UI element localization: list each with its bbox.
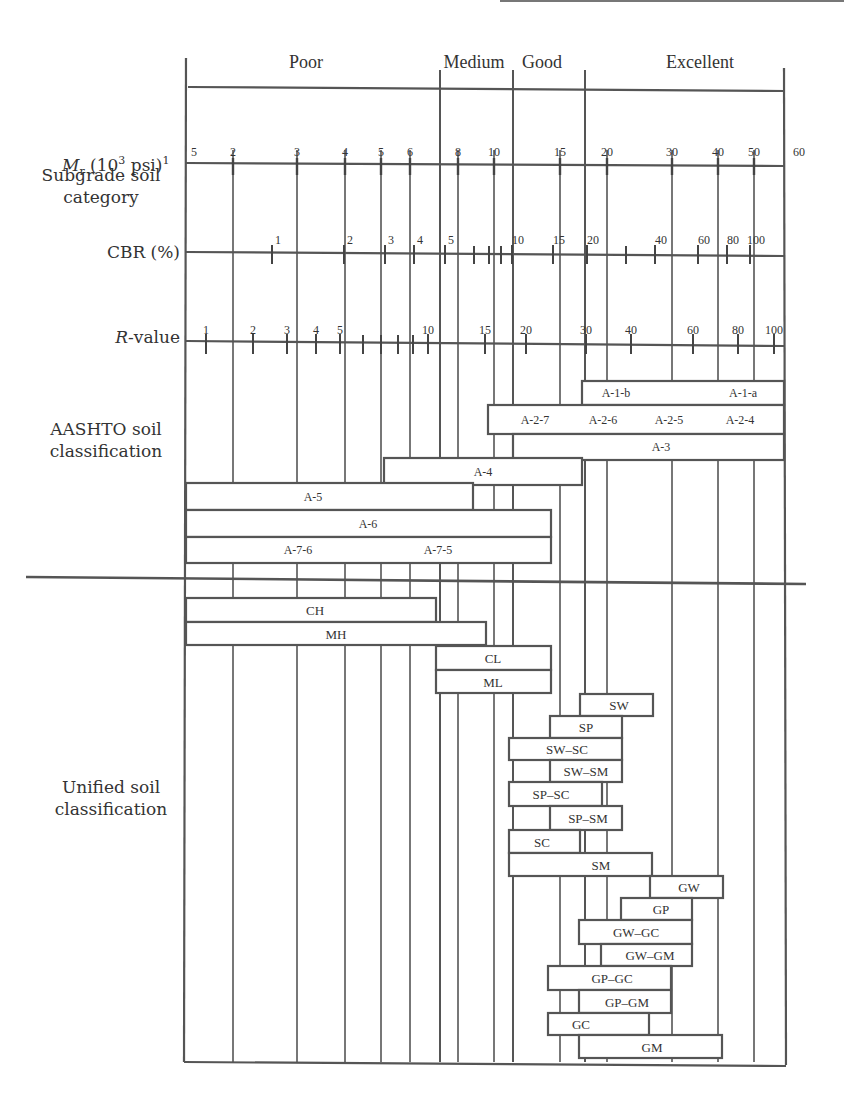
r-value-tick-label: 4 (313, 323, 319, 337)
category-labels: PoorMediumGoodExcellent (289, 52, 734, 72)
mr-tick-label: 2 (230, 145, 236, 159)
mr-axis (186, 163, 784, 166)
cbr-tick-label: 5 (448, 233, 454, 247)
mr-tick-label: 15 (554, 145, 566, 159)
unified-bar (509, 853, 652, 876)
aashto-label-a-7-6: A-7-6 (284, 543, 313, 557)
unified-label-gm: GM (642, 1040, 663, 1055)
mr-tick-label: 60 (793, 145, 805, 159)
r-value-tick-label: 2 (250, 323, 256, 337)
cbr-tick-label: 1 (275, 233, 281, 247)
cbr-tick-label: 3 (388, 233, 394, 247)
unified-label-sw–sm: SW–SM (564, 764, 609, 779)
aashto-label-a-2-5: A-2-5 (655, 413, 684, 427)
unified-label-sp–sc: SP–SC (533, 787, 570, 802)
unified-label-cl: CL (485, 651, 502, 666)
aashto-label-a-1-a: A-1-a (729, 386, 758, 400)
cbr-tick-label: 100 (747, 233, 765, 247)
category-label-good: Good (522, 52, 562, 72)
mr-tick-label: 5 (191, 145, 197, 159)
r-value-tick-label: 20 (520, 323, 532, 337)
unified-label-gp–gc: GP–GC (591, 971, 632, 986)
aashto-label-a-2-4: A-2-4 (726, 413, 755, 427)
unified-label-ml: ML (483, 675, 503, 690)
aashto-label-a-5: A-5 (304, 490, 323, 504)
unified-label-sc: SC (534, 835, 550, 850)
unified-label-sw: SW (609, 698, 629, 713)
cbr-tick-label: 15 (553, 233, 565, 247)
unified-label-sm: SM (592, 858, 611, 873)
r-value-tick-label: 30 (580, 323, 592, 337)
aashto-label-a-6: A-6 (359, 517, 378, 531)
frame-right (784, 68, 786, 1065)
unified-label-gw: GW (678, 880, 700, 895)
r-value-tick-label: 1 (203, 323, 209, 337)
cbr-tick-label: 80 (727, 233, 739, 247)
unified-bars: CHMHCLMLSWSPSW–SCSW–SMSP–SCSP–SMSCSMGWGP… (186, 598, 723, 1058)
r-value-tick-label: 40 (625, 323, 637, 337)
aashto-bar (186, 537, 551, 563)
unified-label-sp: SP (579, 720, 593, 735)
cbr-tick-label: 20 (587, 233, 599, 247)
aashto-label-a-2-6: A-2-6 (589, 413, 618, 427)
unified-label-sw–sc: SW–SC (546, 742, 588, 757)
aashto-bar (186, 483, 473, 510)
aashto-unified-separator (26, 577, 806, 584)
r-value-tick-label: 3 (284, 323, 290, 337)
mr-tick-label: 5 (378, 145, 384, 159)
cbr-tick-label: 40 (655, 233, 667, 247)
unified-label-gp: GP (653, 902, 670, 917)
r-value-tick-label: 5 (337, 323, 343, 337)
cbr-tick-label: 10 (512, 233, 524, 247)
mr-tick-label: 3 (294, 145, 300, 159)
aashto-bar (513, 434, 784, 460)
soil-classification-chart: PoorMediumGoodExcellent 5234568101520304… (0, 0, 844, 1107)
mr-tick-label: 6 (407, 145, 413, 159)
category-label-excellent: Excellent (666, 52, 734, 72)
mr-tick-label: 50 (748, 145, 760, 159)
aashto-bars: A-1-bA-1-aA-2-7A-2-6A-2-5A-2-4A-3A-4A-5A… (186, 381, 784, 563)
cbr-tick-label: 2 (347, 233, 353, 247)
category-label-medium: Medium (444, 52, 505, 72)
cbr-axis (186, 252, 784, 256)
unified-label-gp–gm: GP–GM (605, 995, 650, 1010)
mr-tick-label: 30 (666, 145, 678, 159)
unified-label-gw–gc: GW–GC (613, 925, 659, 940)
mr-tick-label: 20 (601, 145, 613, 159)
category-row-line (188, 87, 784, 91)
aashto-label-a-3: A-3 (652, 440, 671, 454)
unified-bar (548, 1013, 649, 1035)
unified-label-gw–gm: GW–GM (625, 948, 675, 963)
unified-label-sp–sm: SP–SM (568, 811, 608, 826)
unified-label-gc: GC (572, 1017, 590, 1032)
mr-tick-label: 8 (455, 145, 461, 159)
aashto-label-a-4: A-4 (474, 465, 493, 479)
r-value-tick-label: 10 (422, 323, 434, 337)
aashto-label-a-7-5: A-7-5 (424, 543, 453, 557)
category-label-poor: Poor (289, 52, 323, 72)
scale-axes: 5234568101520304050601234510152040608010… (186, 145, 805, 354)
r-value-tick-label: 100 (765, 323, 783, 337)
aashto-label-a-2-7: A-2-7 (521, 413, 550, 427)
r-value-tick-label: 60 (687, 323, 699, 337)
mr-tick-label: 40 (712, 145, 724, 159)
mr-tick-label: 10 (488, 145, 500, 159)
r-value-tick-label: 80 (732, 323, 744, 337)
unified-label-ch: CH (306, 603, 324, 618)
frame-bottom (184, 1062, 786, 1066)
cbr-tick-label: 4 (417, 233, 423, 247)
mr-tick-label: 4 (342, 145, 348, 159)
r-value-tick-label: 15 (479, 323, 491, 337)
aashto-label-a-1-b: A-1-b (602, 386, 631, 400)
cbr-tick-label: 60 (698, 233, 710, 247)
unified-label-mh: MH (326, 627, 347, 642)
